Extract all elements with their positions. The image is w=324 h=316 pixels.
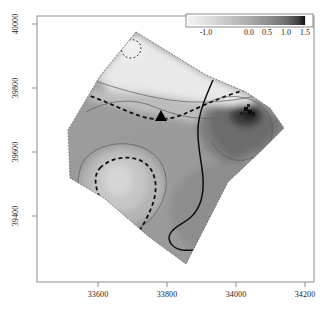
- colorbar-tick-label-0: -1.0: [200, 28, 213, 37]
- colorbar-tick-label-3: 1.0: [281, 28, 291, 37]
- colorbar-tick-label-2: 0.5: [262, 28, 272, 37]
- colorbar: [186, 14, 313, 27]
- y-tick-label-1: 39600: [11, 142, 20, 163]
- contour-map-plot: [0, 0, 324, 316]
- contour-surface: [55, 20, 300, 280]
- figure-container: 33600 33800 34000 34200 39400 39600 3980…: [0, 0, 324, 316]
- y-tick-label-0: 39400: [11, 206, 20, 227]
- x-tick-label-3: 34200: [295, 290, 316, 299]
- y-tick-label-3: 40000: [11, 14, 20, 35]
- colorbar-tick-label-1: 0.0: [244, 28, 254, 37]
- x-tick-label-0: 33600: [88, 290, 109, 299]
- x-tick-label-1: 33800: [157, 290, 178, 299]
- x-tick-label-2: 34000: [226, 290, 247, 299]
- colorbar-tick-label-4: 1.5: [300, 28, 310, 37]
- y-tick-label-2: 39800: [11, 78, 20, 99]
